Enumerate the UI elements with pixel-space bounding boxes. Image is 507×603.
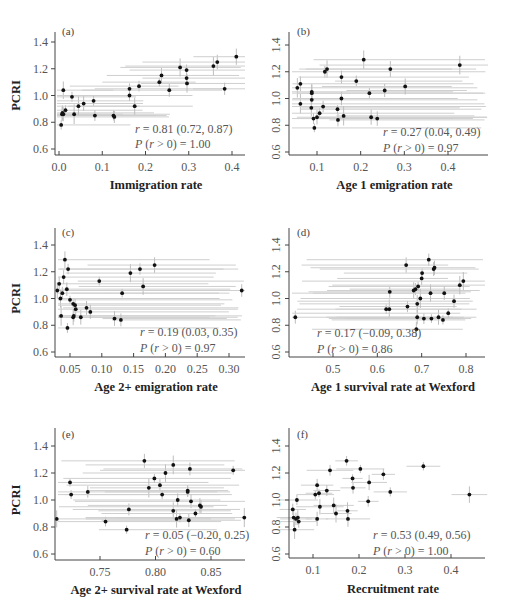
data-point: [293, 528, 297, 532]
y-tick-label: 1.4: [33, 439, 48, 453]
data-point: [367, 481, 371, 485]
data-point: [86, 490, 90, 494]
x-tick-label: 0.4: [441, 160, 456, 174]
stat-annotation: r = 0.05 (−0.20, 0.25): [145, 528, 249, 542]
data-point: [125, 528, 129, 532]
x-tick-label: 0.2: [353, 160, 368, 174]
y-tick-label: 0.6: [269, 547, 283, 562]
panel-label: (b): [297, 25, 310, 38]
data-point: [309, 106, 313, 110]
x-tick-label: 0.10: [91, 362, 112, 376]
data-point: [315, 517, 319, 521]
x-tick-label: 0.6: [370, 362, 385, 376]
x-axis-title: Age 2+ emigration rate: [94, 380, 218, 394]
data-point: [61, 112, 65, 116]
data-point: [310, 91, 314, 95]
y-tick-label: 0.8: [33, 318, 48, 332]
data-point: [387, 307, 391, 311]
x-tick-label: 0.4: [225, 160, 240, 174]
data-point: [66, 267, 70, 271]
data-point: [420, 277, 424, 281]
data-point: [176, 498, 180, 502]
error-bars: [275, 456, 487, 539]
y-tick-label: 1.4: [269, 238, 283, 253]
y-tick-label: 0.8: [269, 520, 283, 535]
data-point: [68, 298, 72, 302]
data-point: [175, 517, 179, 521]
data-point: [164, 471, 168, 475]
data-point: [113, 317, 117, 321]
data-point: [77, 104, 81, 108]
panel-c: 0.60.81.01.21.40.050.100.150.200.250.30A…: [9, 226, 245, 394]
panel-label: (c): [62, 226, 75, 239]
stat-annotation: r = 0.81 (0.72, 0.87): [135, 122, 232, 136]
data-point: [325, 67, 329, 71]
x-tick-label: 0.05: [60, 362, 81, 376]
data-point: [388, 67, 392, 71]
data-point: [120, 291, 124, 295]
x-tick-label: 0.3: [181, 160, 196, 174]
panel-e: 0.60.81.01.21.40.750.800.85Age 2+ surviv…: [9, 428, 249, 597]
data-point: [334, 512, 338, 516]
data-point: [59, 123, 63, 127]
data-point: [437, 315, 441, 319]
x-tick-label: 0.75: [90, 565, 111, 579]
data-point: [73, 303, 77, 307]
y-tick-label: 1.4: [269, 38, 283, 53]
data-point: [178, 66, 182, 70]
stat-annotation: r = 0.53 (0.49, 0.56): [373, 528, 470, 542]
data-point: [68, 481, 72, 485]
data-point: [72, 314, 76, 318]
data-point: [313, 493, 317, 497]
data-point: [415, 302, 419, 306]
data-point: [354, 79, 358, 83]
x-tick-label: 0.15: [123, 362, 144, 376]
data-point: [59, 297, 63, 301]
data-point: [186, 490, 190, 494]
panel-b: 0.60.81.01.21.40.10.20.30.4Age 1 emigrat…: [269, 25, 488, 192]
x-tick-label: 0.30: [219, 362, 240, 376]
data-point: [442, 291, 446, 295]
data-point: [446, 311, 450, 315]
y-axis-title: PCRI: [9, 485, 23, 516]
data-point: [358, 467, 362, 471]
data-point: [383, 89, 387, 93]
data-point: [187, 518, 191, 522]
data-point: [112, 115, 116, 119]
panel-label: (e): [62, 428, 75, 441]
data-point: [369, 115, 373, 119]
data-point: [62, 275, 66, 279]
data-point: [158, 483, 162, 487]
data-point: [340, 75, 344, 79]
data-point: [178, 516, 182, 520]
data-point: [317, 491, 321, 495]
error-bars: [292, 50, 488, 132]
data-point: [291, 508, 295, 512]
y-tick-label: 0.6: [33, 345, 48, 359]
data-point: [452, 299, 456, 303]
y-tick-label: 0.8: [33, 115, 48, 129]
data-point: [160, 74, 164, 78]
data-point: [418, 297, 422, 301]
data-point: [72, 112, 76, 116]
data-point: [416, 285, 420, 289]
data-point: [318, 505, 322, 509]
stat-annotation: P (r > 0) = 1.00: [372, 544, 449, 558]
data-point: [351, 477, 355, 481]
x-tick-label: 0.0: [52, 160, 67, 174]
stat-annotation: r = 0.19 (0.03, 0.35): [140, 325, 237, 339]
data-point: [422, 317, 426, 321]
data-point: [388, 290, 392, 294]
y-tick-label: 0.8: [269, 318, 283, 333]
x-axis-title: Age 2+ survival rate at Wexford: [70, 583, 241, 597]
data-point: [57, 282, 61, 286]
x-tick-label: 0.8: [459, 362, 474, 376]
data-point: [310, 98, 314, 102]
data-point: [63, 258, 67, 262]
data-point: [212, 64, 216, 68]
data-point: [60, 291, 64, 295]
data-point: [147, 486, 151, 490]
y-tick-label: 1.0: [269, 91, 283, 106]
data-point: [97, 279, 101, 283]
y-tick-label: 1.2: [269, 64, 283, 79]
